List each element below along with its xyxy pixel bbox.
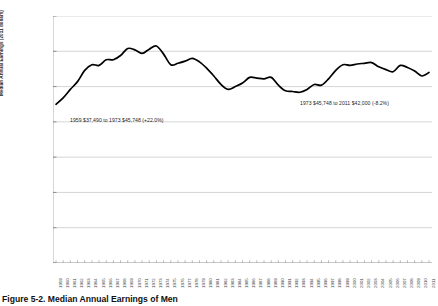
x-axis-tick-label: 2007	[402, 278, 407, 288]
x-axis-tick-label: 1965	[101, 278, 106, 288]
x-axis-tick-label: 1982	[223, 278, 228, 288]
x-axis-tick-label: 1993	[301, 278, 306, 288]
x-axis-tick-label: 1977	[187, 278, 192, 288]
x-axis-tick-label: 1962	[79, 278, 84, 288]
annotation-1959-1973: 1959 $37,490 to 1973 $45,748 (+22.0%)	[70, 117, 163, 123]
x-axis-tick-label: 2000	[352, 278, 357, 288]
x-axis-tick-label: 1973	[158, 278, 163, 288]
x-axis-tick-label: 1989	[273, 278, 278, 288]
x-axis-tick-label: 1986	[251, 278, 256, 288]
x-axis-tick-label: 1998	[337, 278, 342, 288]
x-axis-tick-label: 2004	[380, 278, 385, 288]
x-axis-tick-label: 2003	[373, 278, 378, 288]
x-axis-tick-label: 1978	[194, 278, 199, 288]
figure-caption: Figure 5-2. Median Annual Earnings of Me…	[2, 294, 436, 304]
x-axis-tick-label: 1995	[316, 278, 321, 288]
figure-container: Median Annual Earnings (2011 dollars) $5…	[0, 0, 438, 306]
x-axis-tick-label: 1981	[215, 278, 220, 288]
x-axis-tick-label: 1992	[294, 278, 299, 288]
x-axis-tick-label: 1970	[137, 278, 142, 288]
x-axis-tick-labels: 1959196019611962196319641965196619671968…	[53, 265, 432, 293]
plot-area	[53, 16, 432, 263]
x-axis-tick-label: 1963	[86, 278, 91, 288]
x-axis-tick-label: 2009	[416, 278, 421, 288]
x-axis-tick-label: 1999	[345, 278, 350, 288]
x-axis-tick-label: 2005	[388, 278, 393, 288]
x-axis-tick-label: 1991	[287, 278, 292, 288]
y-axis-tick-labels: $50,000$45,000$40,000$35,000$30,000$25,0…	[0, 0, 53, 306]
x-axis-tick-label: 1987	[258, 278, 263, 288]
x-axis-tick-label: 1960	[65, 278, 70, 288]
x-axis-tick-label: 1983	[230, 278, 235, 288]
x-axis-tick-label: 1985	[244, 278, 249, 288]
plot-box	[53, 16, 432, 263]
x-axis-tick-label: 1988	[266, 278, 271, 288]
x-axis-tick-label: 1997	[330, 278, 335, 288]
x-axis-tick-label: 1964	[93, 278, 98, 288]
x-axis-tick-label: 1994	[309, 278, 314, 288]
x-axis-tick-label: 1972	[151, 278, 156, 288]
annotation-1973-2011: 1973 $45,748 to 2011 $42,000 (-8.2%)	[300, 100, 389, 106]
x-axis-tick-label: 1966	[108, 278, 113, 288]
x-axis-tick-label: 1980	[208, 278, 213, 288]
x-axis-tick-label: 1975	[172, 278, 177, 288]
x-axis-tick-label: 2001	[359, 278, 364, 288]
x-axis-tick-label: 1979	[201, 278, 206, 288]
x-axis-tick-label: 1968	[122, 278, 127, 288]
x-axis-tick-label: 1976	[180, 278, 185, 288]
x-axis-tick-label: 1984	[237, 278, 242, 288]
x-axis-tick-label: 2010	[423, 278, 428, 288]
x-axis-tick-label: 1959	[58, 278, 63, 288]
x-axis-tick-label: 1990	[280, 278, 285, 288]
x-axis-tick-label: 2002	[366, 278, 371, 288]
gridlines	[53, 16, 432, 263]
x-axis-tick-label: 1969	[129, 278, 134, 288]
x-axis-tick-label: 1967	[115, 278, 120, 288]
x-axis-tick-label: 1974	[165, 278, 170, 288]
x-axis-tick-label: 1996	[323, 278, 328, 288]
x-axis-tick-label: 2006	[395, 278, 400, 288]
x-axis-tick-label: 2011	[431, 279, 436, 288]
earnings-line-series	[56, 46, 429, 104]
x-axis-tick-label: 1971	[144, 278, 149, 288]
axis-lines	[53, 16, 432, 263]
line-chart-svg	[53, 16, 432, 263]
x-axis-tick-label: 2008	[409, 278, 414, 288]
x-axis-tick-label: 1961	[72, 278, 77, 288]
